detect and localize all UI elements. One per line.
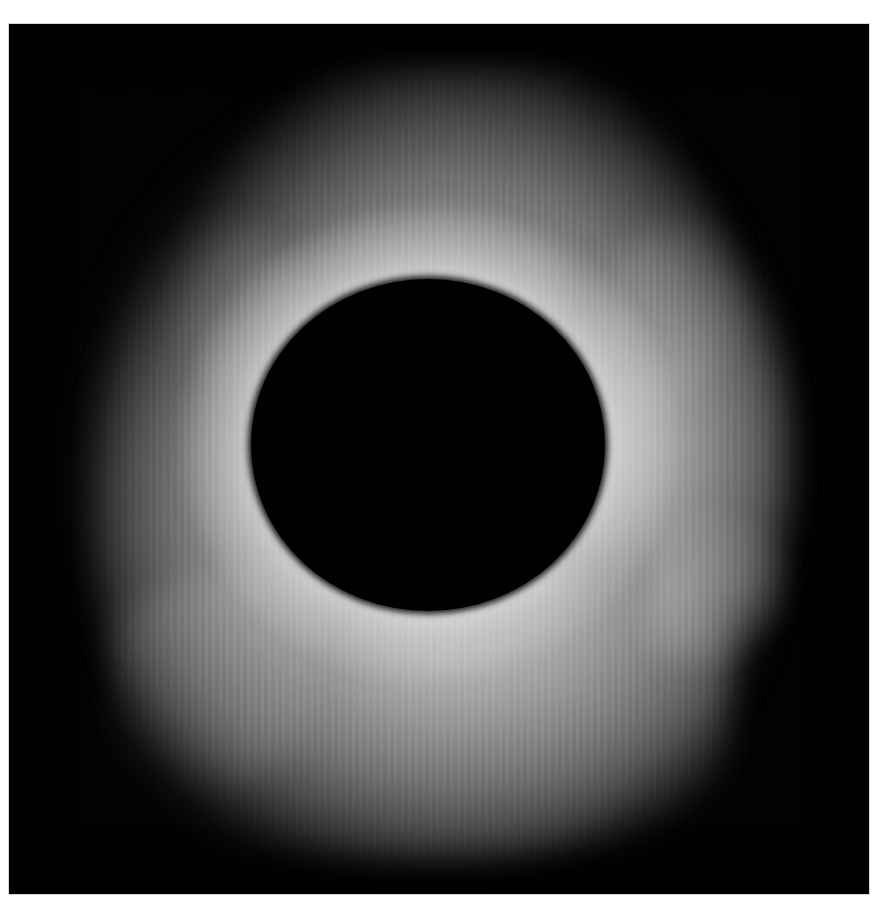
dark-sky-vignette: [9, 24, 869, 894]
eclipse-photo: [9, 24, 869, 894]
